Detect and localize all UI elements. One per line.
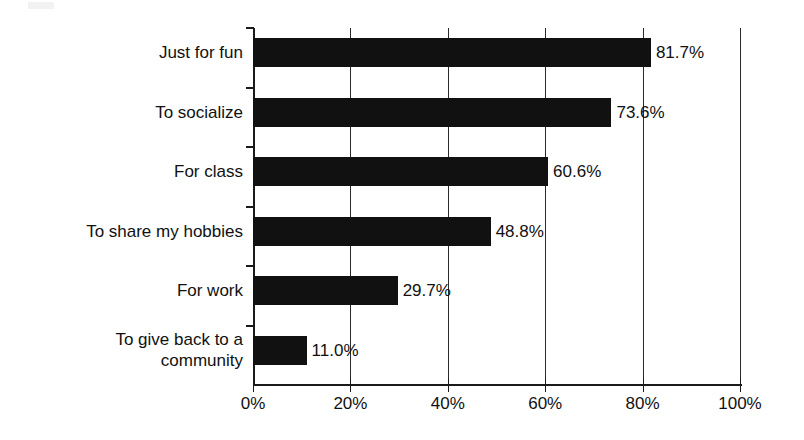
bar-value-label: 11.0% [312,336,359,365]
bar-value-label: 29.7% [403,276,451,305]
category-label-line: To socialize [13,102,243,123]
x-tick-label: 80% [626,394,660,414]
category-labels: Just for funTo socializeFor classTo shar… [3,28,253,385]
category-label: For work [13,280,253,301]
bar [253,276,398,305]
bar-value-label: 73.6% [616,98,664,127]
bar [253,157,548,186]
category-label: To socialize [13,102,253,123]
x-tick-100% [740,378,741,392]
horizontal-bar-chart: 0%20%40%60%80%100% Just for funTo social… [0,0,804,440]
bar-series: 81.7%73.6%60.6%48.8%29.7%11.0% [253,28,740,385]
bar-value-label: 60.6% [553,157,601,186]
category-label: Just for fun [13,42,253,63]
category-label-line: To give back to a [13,329,243,350]
x-tick-label: 100% [718,394,761,414]
category-label-line: For work [13,280,243,301]
bar [253,38,651,67]
scan-artifact [28,2,54,9]
x-tick-label: 40% [431,394,465,414]
category-label-line: For class [13,161,243,182]
bar-value-label: 48.8% [496,217,544,246]
category-label-line: To share my hobbies [13,221,243,242]
bar-value-label: 81.7% [656,38,704,67]
category-label: To give back to acommunity [13,329,253,371]
x-tick-label: 60% [528,394,562,414]
category-label: For class [13,161,253,182]
category-label-line: community [13,350,243,371]
gridline-100% [740,28,741,385]
category-label-line: Just for fun [13,42,243,63]
bar [253,217,491,246]
bar [253,336,307,365]
bar [253,98,611,127]
x-tick-label: 0% [241,394,266,414]
category-label: To share my hobbies [13,221,253,242]
x-tick-label: 20% [333,394,367,414]
